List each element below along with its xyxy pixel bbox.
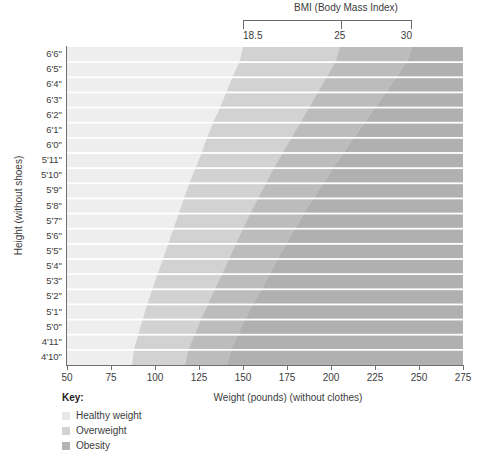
- legend-item-label: Healthy weight: [76, 410, 142, 422]
- x-axis-tick: [155, 366, 156, 370]
- y-tick-label: 5'4": [46, 261, 62, 271]
- bmi-chart-figure: BMI (Body Mass Index) 18.5 25 30 Height …: [0, 0, 481, 466]
- x-tick-label: 75: [105, 372, 116, 383]
- x-axis-tick: [199, 366, 200, 370]
- legend-item-label: Overweight: [76, 425, 127, 437]
- x-tick-label: 50: [61, 372, 72, 383]
- x-axis-title: Weight (pounds) (without clothes): [148, 392, 428, 403]
- x-tick-label: 275: [455, 372, 472, 383]
- gridline-row: [67, 137, 463, 139]
- legend-item-label: Obesity: [76, 440, 110, 452]
- gridline-row: [67, 213, 463, 215]
- gridline-row: [67, 167, 463, 169]
- legend-swatch-icon: [62, 442, 70, 450]
- x-tick-label: 150: [235, 372, 252, 383]
- y-tick-label: 4'10": [41, 352, 62, 362]
- x-axis-line: [66, 365, 464, 366]
- y-tick-label: 5'1": [46, 307, 62, 317]
- gridline-row: [67, 182, 463, 184]
- gridline-row: [67, 61, 463, 63]
- x-tick-label: 250: [411, 372, 428, 383]
- y-tick-label: 5'0": [46, 322, 62, 332]
- gridline-row: [67, 243, 463, 245]
- x-tick-label: 175: [279, 372, 296, 383]
- gridline-row: [67, 152, 463, 154]
- y-tick-label: 6'5": [46, 64, 62, 74]
- gridline-row: [67, 228, 463, 230]
- legend-swatch-icon: [62, 427, 70, 435]
- x-axis-tick: [287, 366, 288, 370]
- y-tick-label: 5'6": [46, 231, 62, 241]
- gridline-row: [67, 334, 463, 336]
- y-axis-title: Height (without shoes): [13, 116, 24, 296]
- y-tick-label: 5'10": [41, 170, 62, 180]
- gridline-row: [67, 273, 463, 275]
- bmi-tick-label-30: 30: [401, 30, 412, 41]
- gridline-row: [67, 288, 463, 290]
- y-tick-label: 5'9": [46, 185, 62, 195]
- legend-item: Obesity: [62, 438, 142, 453]
- x-tick-label: 225: [367, 372, 384, 383]
- gridline-row: [67, 304, 463, 306]
- x-axis-tick: [111, 366, 112, 370]
- x-axis-tick: [243, 366, 244, 370]
- bmi-band-surface: [67, 47, 463, 365]
- y-axis-line: [66, 46, 67, 366]
- y-tick-label: 6'4": [46, 79, 62, 89]
- bmi-tick-label-18-5: 18.5: [243, 30, 262, 41]
- y-tick-label: 5'5": [46, 246, 62, 256]
- y-tick-label: 6'0": [46, 140, 62, 150]
- x-tick-label: 125: [191, 372, 208, 383]
- gridline-row: [67, 319, 463, 321]
- chart-plot-area: [67, 47, 463, 365]
- gridline-row: [67, 349, 463, 351]
- bmi-header-title: BMI (Body Mass Index): [243, 2, 449, 13]
- x-tick-label: 100: [147, 372, 164, 383]
- legend-swatch-icon: [62, 412, 70, 420]
- y-tick-label: 6'3": [46, 95, 62, 105]
- y-tick-label: 6'2": [46, 110, 62, 120]
- x-axis-tick: [67, 366, 68, 370]
- gridline-row: [67, 76, 463, 78]
- y-tick-label: 6'6": [46, 49, 62, 59]
- gridline-row: [67, 107, 463, 109]
- legend-items: Healthy weightOverweightObesity: [62, 408, 142, 453]
- legend-title: Key:: [62, 392, 142, 404]
- y-tick-label: 4'11": [42, 337, 62, 347]
- y-tick-label: 6'1": [46, 125, 62, 135]
- x-axis-tick: [463, 366, 464, 370]
- gridline-row: [67, 122, 463, 124]
- bmi-bracket-mid-tick: [341, 20, 342, 29]
- legend-item: Overweight: [62, 423, 142, 438]
- legend: Key: Healthy weightOverweightObesity: [62, 392, 142, 453]
- bmi-bracket: [243, 20, 412, 29]
- y-tick-label: 5'11": [42, 155, 62, 165]
- x-axis-tick: [375, 366, 376, 370]
- y-tick-label: 5'8": [46, 201, 62, 211]
- x-tick-label: 200: [323, 372, 340, 383]
- y-tick-label: 5'2": [46, 291, 62, 301]
- gridline-row: [67, 198, 463, 200]
- x-axis-tick: [331, 366, 332, 370]
- y-tick-label: 5'7": [46, 216, 62, 226]
- x-axis-tick: [419, 366, 420, 370]
- bmi-tick-label-25: 25: [334, 30, 345, 41]
- legend-item: Healthy weight: [62, 408, 142, 423]
- gridline-row: [67, 258, 463, 260]
- gridline-row: [67, 92, 463, 94]
- y-tick-label: 5'3": [46, 276, 62, 286]
